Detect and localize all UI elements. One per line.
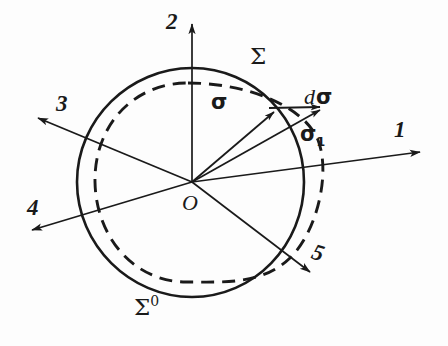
axis-label-2: 2 xyxy=(166,10,178,33)
origin-label: O xyxy=(182,192,198,214)
axis-label-1: 1 xyxy=(394,118,406,141)
axis-3-line xyxy=(38,118,192,182)
axis-4-line xyxy=(32,182,192,230)
curve-label-sigma-zero: Σ0 xyxy=(134,296,159,319)
vector-label-d-sigma-base: σ xyxy=(316,85,332,109)
vector-sigma-arrow xyxy=(192,112,274,182)
figure-diagram: 2 1 3 4 5 O Σ Σ0 σ dσ σ1 xyxy=(0,0,448,346)
curve-label-sigma-zero-base: Σ xyxy=(134,294,150,320)
axis-5-line xyxy=(192,182,310,272)
axis-label-4: 4 xyxy=(27,196,39,219)
curve-label-sigma: Σ xyxy=(250,45,266,68)
vector-label-sigma-one-sub: 1 xyxy=(316,134,325,149)
curve-label-sigma-zero-sup: 0 xyxy=(150,293,159,309)
vector-label-sigma: σ xyxy=(211,92,227,113)
curve-sigma-dashed xyxy=(95,83,323,282)
axis-label-3: 3 xyxy=(56,92,68,115)
axis-1-line xyxy=(192,152,420,182)
vector-sigma-one-arrow xyxy=(192,110,320,182)
vector-label-d-sigma-prefix: d xyxy=(304,84,316,109)
diagram-canvas xyxy=(0,0,448,346)
vector-label-sigma-one-base: σ xyxy=(300,122,316,146)
vector-label-sigma-one: σ1 xyxy=(300,124,325,145)
vector-label-d-sigma: dσ xyxy=(304,86,332,108)
